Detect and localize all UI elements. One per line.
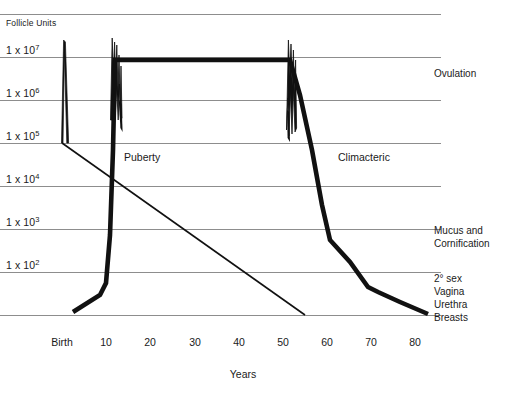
y-tick-label-1e7: 1 x 107 (6, 44, 40, 56)
y-tick-label-1e5: 1 x 105 (6, 130, 40, 142)
x-tick-label-70: 70 (365, 336, 377, 348)
x-tick-label-20: 20 (144, 336, 156, 348)
x-tick-label-30: 30 (189, 336, 201, 348)
x-axis-title: Years (230, 368, 256, 380)
right-label-cornification: Cornification (434, 237, 490, 250)
y-tick-label-1e4: 1 x 104 (6, 173, 40, 185)
x-tick-label-10: 10 (100, 336, 112, 348)
y-tick-label-1e6: 1 x 106 (6, 87, 40, 99)
y-tick-label-1e3: 1 x 103 (6, 216, 40, 228)
y-axis-title: Follicle Units (6, 18, 56, 28)
chart-plot-area (0, 0, 507, 397)
x-tick-label-60: 60 (321, 336, 333, 348)
right-label-vagina: Vagina (434, 285, 464, 298)
right-label-secondary-sex: 2° sex (434, 272, 462, 285)
spike-neonatal-surge (62, 40, 69, 143)
annotation-climacteric: Climacteric (338, 151, 390, 163)
right-label-ovulation: Ovulation (434, 67, 476, 80)
x-tick-label-birth: Birth (51, 336, 73, 348)
x-tick-label-40: 40 (233, 336, 245, 348)
right-label-breasts: Breasts (434, 311, 468, 324)
x-tick-label-50: 50 (277, 336, 289, 348)
follicle-units-chart: Follicle Units 1 x 107 1 x 106 1 x 105 1… (0, 0, 507, 397)
annotation-puberty: Puberty (124, 151, 160, 163)
y-tick-label-1e2: 1 x 102 (6, 259, 40, 271)
right-label-mucus: Mucus and (434, 224, 483, 237)
x-tick-label-80: 80 (409, 336, 421, 348)
right-label-urethra: Urethra (434, 298, 467, 311)
